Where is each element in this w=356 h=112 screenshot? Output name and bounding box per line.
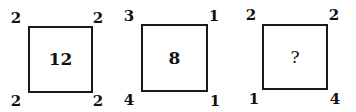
corner-bottom-left: 2 — [9, 94, 23, 109]
corner-top-right: 2 — [91, 11, 105, 26]
corner-top-left: 3 — [122, 9, 136, 24]
square-box: 8 — [141, 24, 208, 92]
square-box: ? — [262, 24, 328, 90]
number-square-puzzle: 2 2 12 2 2 3 1 8 4 1 2 2 ? 1 4 — [0, 0, 356, 112]
corner-bottom-left: 1 — [247, 92, 261, 107]
corner-top-right: 1 — [207, 9, 221, 24]
center-value: 12 — [49, 51, 73, 68]
corner-top-right: 2 — [327, 8, 341, 23]
corner-top-left: 2 — [244, 8, 258, 23]
square-box: 12 — [28, 26, 93, 93]
corner-bottom-right: 4 — [328, 92, 342, 107]
corner-bottom-right: 1 — [208, 94, 222, 109]
corner-bottom-right: 2 — [91, 94, 105, 109]
corner-top-left: 2 — [9, 11, 23, 26]
corner-bottom-left: 4 — [122, 93, 136, 108]
center-value: 8 — [169, 50, 181, 67]
unknown-value: ? — [290, 49, 299, 66]
